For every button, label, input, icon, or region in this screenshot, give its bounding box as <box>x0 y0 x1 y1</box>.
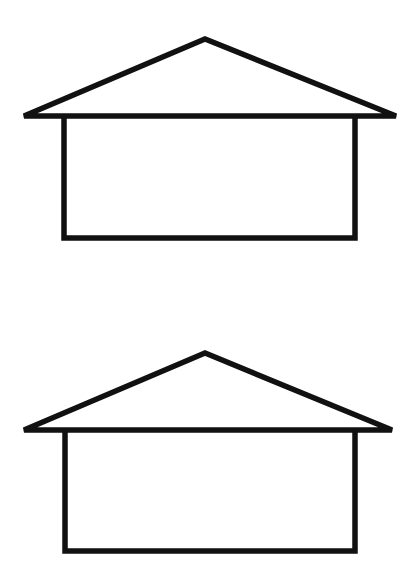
background-rect <box>0 0 412 572</box>
figure-canvas <box>0 0 412 572</box>
house-figures-svg <box>0 0 412 572</box>
